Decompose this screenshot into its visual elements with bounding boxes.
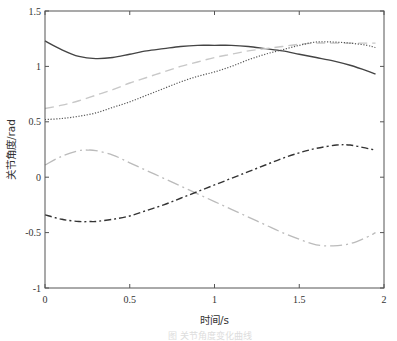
series-layer xyxy=(45,41,376,246)
series-line-joint-1 xyxy=(45,41,376,74)
x-tick-label: 0 xyxy=(43,294,48,305)
y-tick-label: -1 xyxy=(33,283,41,294)
series-line-joint-4 xyxy=(45,150,376,246)
x-tick-label: 0.5 xyxy=(124,294,137,305)
x-tick-label: 1 xyxy=(212,294,217,305)
ticks-layer: 00.511.52-1-0.500.511.5 xyxy=(25,6,386,306)
y-tick-label: 0 xyxy=(36,172,41,183)
x-tick-label: 1.5 xyxy=(293,294,306,305)
figure-caption: 图 关节角度变化曲线 xyxy=(168,330,252,341)
series-line-joint-3 xyxy=(45,42,376,120)
y-axis-label: 关节角度/rad xyxy=(5,119,17,180)
y-tick-label: 1 xyxy=(36,61,41,72)
y-tick-label: 1.5 xyxy=(29,6,42,17)
x-axis-label: 时间/s xyxy=(200,314,229,326)
series-line-joint-2 xyxy=(45,43,376,108)
x-tick-label: 2 xyxy=(382,294,387,305)
y-tick-label: -0.5 xyxy=(25,227,41,238)
series-line-joint-5 xyxy=(45,145,376,222)
y-tick-label: 0.5 xyxy=(29,116,42,127)
line-chart: 00.511.52-1-0.500.511.5 时间/s 关节角度/rad 图 … xyxy=(0,0,397,341)
